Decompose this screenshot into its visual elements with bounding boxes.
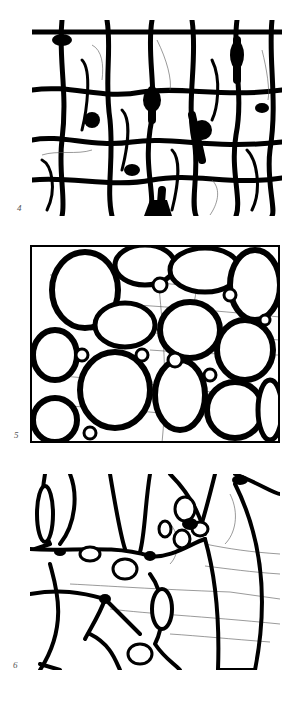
figure-panel-6	[30, 474, 280, 670]
cell-network-illustration-6	[30, 474, 280, 670]
panel-label-4: 4	[17, 203, 22, 213]
panel-label-6: 6	[13, 660, 18, 670]
cell-network-illustration-4	[32, 20, 282, 216]
panel-label-5: 5	[14, 430, 19, 440]
figure-panel-4	[32, 20, 282, 216]
figure-panel-5	[30, 245, 280, 443]
cell-network-illustration-5	[30, 245, 280, 443]
